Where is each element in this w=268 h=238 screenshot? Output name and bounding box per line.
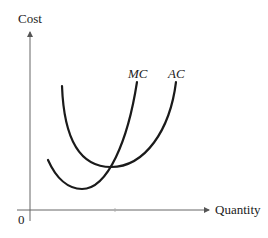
origin-label: 0 [18, 212, 25, 227]
mc-curve [48, 82, 137, 189]
x-axis-label: Quantity [215, 202, 261, 217]
cost-curves-diagram: Cost Quantity 0 MC AC [0, 0, 268, 238]
ac-label: AC [167, 66, 185, 81]
ac-curve [62, 82, 176, 167]
y-axis-label: Cost [18, 11, 42, 26]
mc-label: MC [127, 66, 148, 81]
